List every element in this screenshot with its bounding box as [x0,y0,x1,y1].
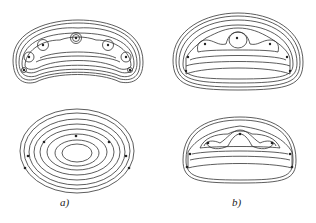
panel-top-right [173,13,303,90]
panel-top-left [13,20,143,83]
panel-bottom-left [20,109,134,193]
contour-diagram [0,0,316,223]
label-a: a) [60,196,69,208]
label-b: b) [232,196,241,208]
panel-bottom-right [183,117,296,183]
